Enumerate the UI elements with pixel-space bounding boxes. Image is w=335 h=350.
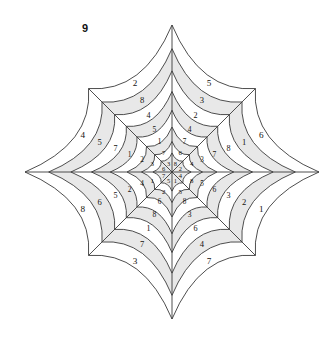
web-cell-number: 7 (162, 149, 166, 156)
web-cell-number: 7 (213, 150, 217, 159)
web-cell-number: 3 (200, 95, 204, 105)
web-cell-number: 6 (213, 185, 217, 194)
web-cell-number: 3 (188, 210, 192, 219)
web-cell-number: 8 (140, 95, 144, 105)
web-cell-number: 4 (80, 130, 85, 140)
web-cell-number: 3 (167, 160, 170, 167)
web-cell-number: 6 (193, 224, 197, 233)
web-cell-number: 5 (207, 78, 212, 88)
spider-web-puzzle: 9 86742352437816485632115836475268173714… (0, 0, 335, 350)
web-cell-number: 6 (98, 197, 103, 207)
web-cell-number: 6 (178, 149, 182, 156)
web-cell-number: 7 (113, 144, 117, 153)
web-cell-number: 5 (98, 137, 102, 147)
web-cell-number: 4 (190, 160, 194, 167)
web-cell-number: 8 (227, 144, 231, 153)
web-cell-number: 8 (183, 198, 187, 206)
web-cell-number: 2 (242, 197, 246, 207)
web-cell-number: 1 (259, 204, 264, 214)
web-cell-number: 4 (147, 111, 151, 120)
web-cell-number: 3 (151, 160, 155, 167)
web-cell-number: 2 (133, 78, 138, 88)
web-cell-number: 7 (207, 256, 212, 266)
web-cell-number: 1 (158, 138, 162, 146)
web-cell-number: 5 (113, 191, 117, 200)
web-cell-number: 3 (200, 156, 204, 164)
web-cell-number: 2 (193, 111, 197, 120)
web-cell-number: 4 (140, 180, 144, 188)
web-cell-number: 3 (227, 191, 231, 200)
web-cell-number: 5 (167, 177, 170, 184)
web-cell-number: 5 (153, 125, 157, 134)
web-cell-number: 4 (200, 239, 205, 249)
web-cell-number: 1 (174, 177, 177, 184)
spider-web-diagram: 8674235243781648563211583647526817371425… (0, 0, 335, 350)
web-cell-number: 6 (259, 130, 264, 140)
web-cell-number: 5 (200, 180, 204, 188)
web-cell-number: 1 (242, 137, 246, 147)
web-cell-number: 1 (147, 224, 151, 233)
web-cell-number: 5 (178, 188, 182, 195)
web-cell-number: 4 (188, 125, 192, 134)
web-cell-number: 2 (140, 156, 144, 164)
web-cell-number: 7 (183, 138, 187, 146)
web-cell-number: 8 (190, 177, 194, 184)
web-cell-number: 1 (151, 177, 155, 184)
web-cell-number: 2 (162, 188, 166, 195)
web-cell-number: 3 (133, 256, 138, 266)
web-cell-number: 2 (128, 185, 132, 194)
web-cell-number: 8 (153, 210, 157, 219)
web-spoke-layer (25, 25, 319, 319)
web-cell-number: 6 (158, 198, 162, 206)
web-cell-number: 8 (80, 204, 85, 214)
web-cell-number: 1 (128, 150, 132, 159)
web-cell-number: 7 (140, 239, 145, 249)
web-cell-number: 8 (174, 160, 177, 167)
